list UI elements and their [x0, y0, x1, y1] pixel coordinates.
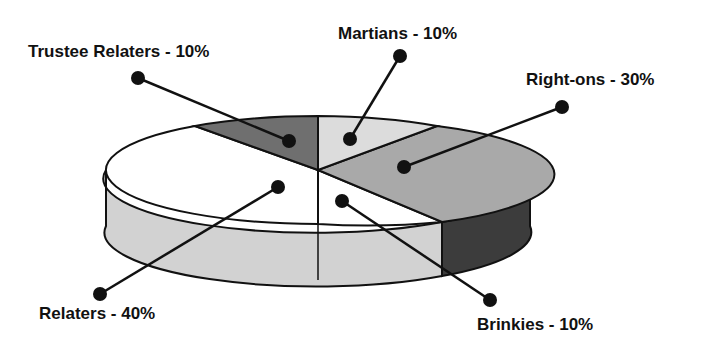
dot-icon [483, 293, 497, 307]
dot-icon [131, 71, 145, 85]
label-trustee-relaters: Trustee Relaters - 10% [28, 42, 209, 62]
dot-icon [282, 134, 296, 148]
label-relaters: Relaters - 40% [39, 304, 155, 324]
label-right-ons: Right-ons - 30% [526, 70, 654, 90]
dot-icon [343, 132, 357, 146]
dot-icon [271, 180, 285, 194]
dot-icon [93, 287, 107, 301]
label-brinkies: Brinkies - 10% [477, 315, 593, 335]
label-martians: Martians - 10% [338, 24, 457, 44]
dot-icon [335, 194, 349, 208]
dot-icon [555, 100, 569, 114]
dot-icon [397, 160, 411, 174]
dot-icon [393, 49, 407, 63]
pie-chart: Trustee Relaters - 10% Martians - 10% Ri… [0, 0, 721, 350]
